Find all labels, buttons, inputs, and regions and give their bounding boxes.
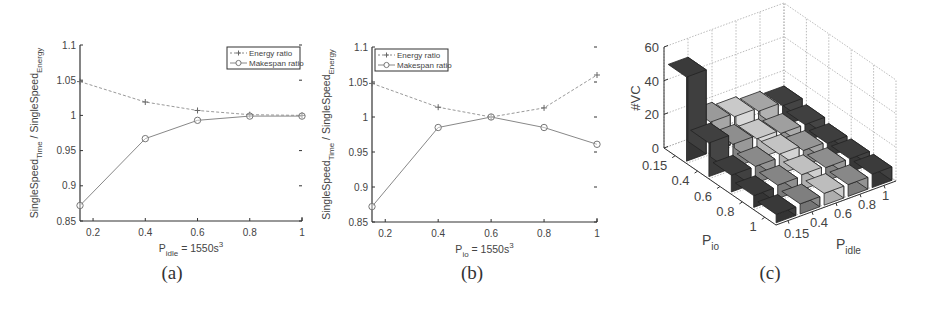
- pio-axis-label: Pio: [702, 232, 720, 252]
- pidle-tick-label: 0.15: [784, 226, 809, 241]
- caption-c: (c): [750, 262, 790, 284]
- pidle-axis-label: Pidle: [836, 236, 861, 256]
- z-axis-label: #VC: [628, 85, 643, 110]
- bar3d-chart-c: 0204060#VC0.150.40.60.810.150.40.60.81Pi…: [0, 0, 933, 262]
- z-tick-label: 40: [645, 74, 659, 89]
- pidle-tick-label: 0.4: [810, 215, 828, 230]
- pio-tick-label: 0.4: [672, 173, 690, 188]
- pidle-tick-label: 0.8: [858, 197, 876, 212]
- pio-tick-label: 0.8: [716, 204, 734, 219]
- caption-a: (a): [152, 262, 192, 284]
- pio-tick-label: 0.15: [642, 158, 667, 173]
- caption-b: (b): [452, 262, 492, 284]
- bar: [668, 57, 706, 161]
- pio-tick-label: 1: [750, 219, 757, 234]
- pidle-tick-label: 0.6: [834, 206, 852, 221]
- z-tick-label: 60: [645, 40, 659, 55]
- pio-tick-label: 0.6: [694, 189, 712, 204]
- z-tick-label: 20: [645, 107, 659, 122]
- z-tick-label: 0: [652, 141, 659, 156]
- pidle-tick-label: 1: [882, 188, 889, 203]
